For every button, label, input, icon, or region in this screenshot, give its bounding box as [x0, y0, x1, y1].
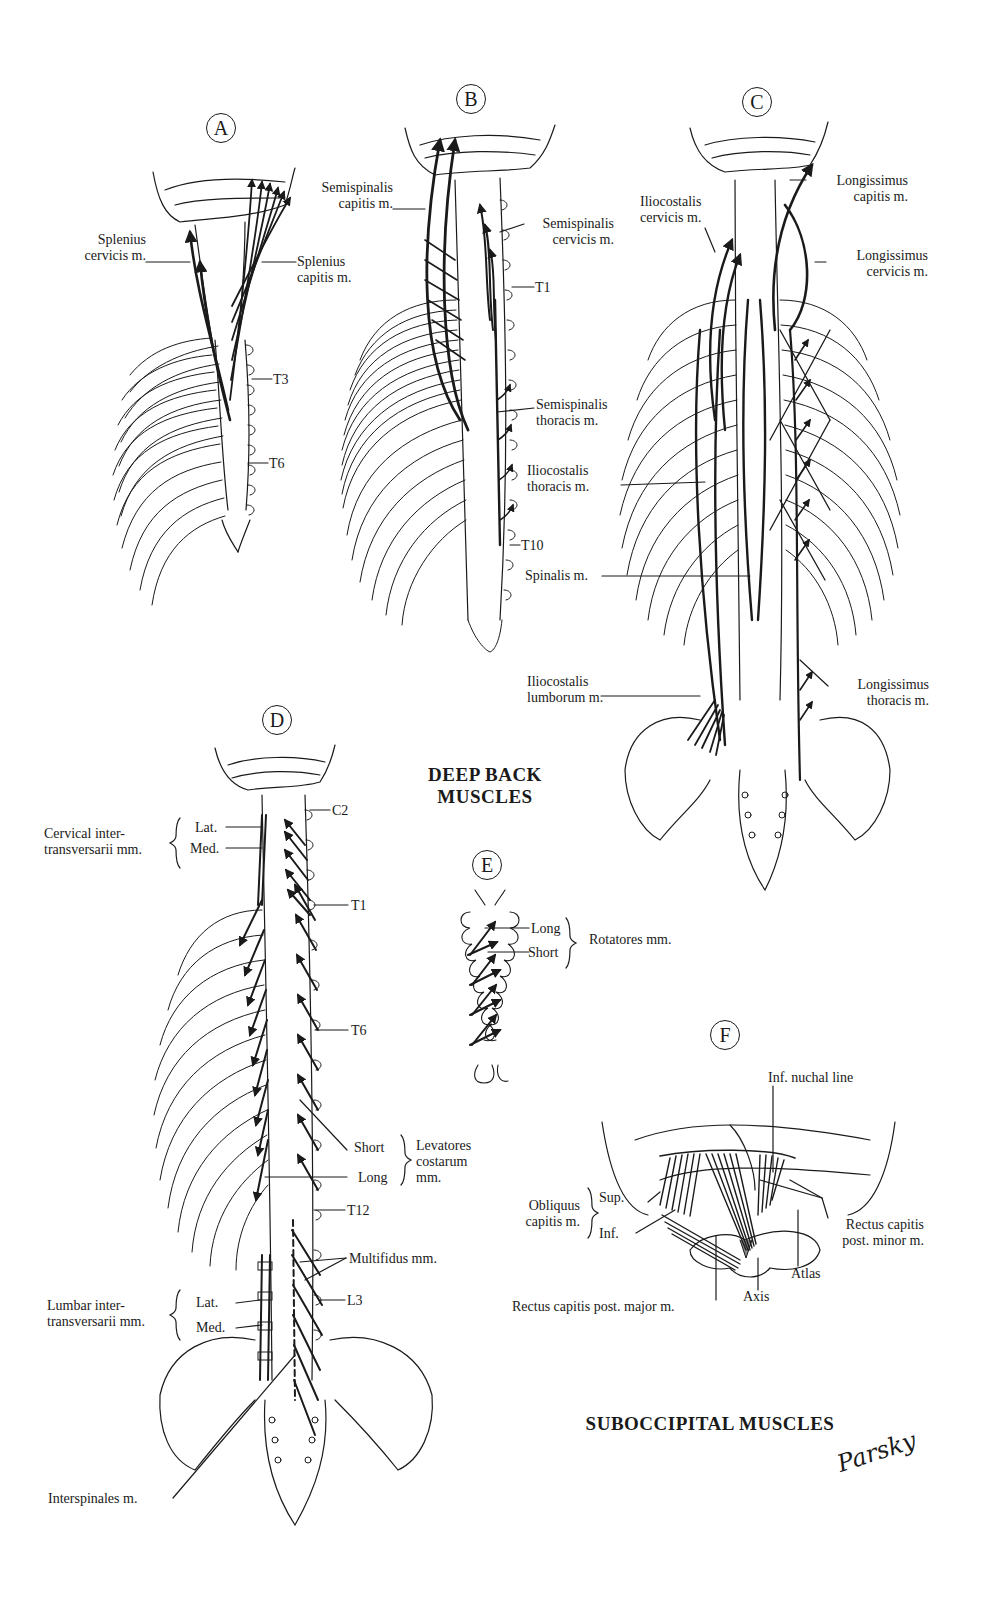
label-line: capitis m.	[300, 196, 393, 212]
label-iliocostalis-lumborum: Iliocostalis lumborum m.	[527, 674, 603, 706]
label-levatores-long: Long	[358, 1170, 388, 1186]
label-line: Iliocostalis	[527, 674, 603, 690]
panel-f-drawing	[602, 1122, 895, 1277]
label-lumbar-med: Med.	[196, 1320, 225, 1336]
label-atlas: Atlas	[791, 1266, 821, 1282]
label-interspinales: Interspinales m.	[48, 1491, 137, 1507]
label-line: costarum	[416, 1154, 471, 1170]
label-t6-d: T6	[351, 1023, 367, 1039]
figure-title-line-1: DEEP BACK	[410, 764, 560, 786]
label-longissimus-cervicis: Longissimus cervicis m.	[828, 248, 928, 280]
label-line: cervicis m.	[640, 210, 701, 226]
label-t1-b: T1	[535, 280, 551, 296]
label-line: thoracis m.	[829, 693, 929, 709]
panel-label-f: F	[710, 1020, 740, 1050]
label-lumbar-lat: Lat.	[196, 1295, 218, 1311]
label-iliocostalis-thoracis: Iliocostalis thoracis m.	[527, 463, 589, 495]
label-line: Longissimus	[828, 248, 928, 264]
label-axis: Axis	[743, 1289, 769, 1305]
figure-title-line-2: MUSCLES	[410, 786, 560, 808]
label-t6: T6	[269, 456, 285, 472]
label-splenius-capitis: Splenius capitis m.	[297, 254, 351, 286]
label-levatores-costarum: Levatores costarum mm.	[416, 1138, 471, 1186]
label-line: Semispinalis	[536, 397, 608, 413]
label-line: Iliocostalis	[640, 194, 701, 210]
panel-e-drawing	[461, 890, 519, 1083]
label-l3: L3	[347, 1293, 363, 1309]
label-line: Longissimus	[829, 677, 929, 693]
label-line: capitis m.	[297, 270, 351, 286]
label-line: Levatores	[416, 1138, 471, 1154]
label-levatores-short: Short	[354, 1140, 384, 1156]
label-cervical-lat: Lat.	[195, 820, 217, 836]
label-t1-d: T1	[351, 898, 367, 914]
label-semispinalis-capitis: Semispinalis capitis m.	[300, 180, 393, 212]
label-line: thoracis m.	[527, 479, 589, 495]
label-line: Semispinalis	[524, 216, 614, 232]
label-rotatores-short: Short	[528, 945, 558, 961]
label-line: thoracis m.	[536, 413, 608, 429]
panel-label-a: A	[206, 113, 236, 143]
label-line: cervicis m.	[524, 232, 614, 248]
label-line: transversarii mm.	[44, 842, 142, 858]
label-c2: C2	[332, 803, 348, 819]
label-line: mm.	[416, 1170, 471, 1186]
label-rotatores: Rotatores mm.	[589, 932, 671, 948]
figure-subtitle: SUBOCCIPITAL MUSCLES	[555, 1413, 865, 1435]
label-line: Lumbar inter-	[47, 1298, 145, 1314]
leader-lines	[146, 180, 828, 1498]
panel-c-drawing	[620, 122, 900, 890]
label-line: Splenius	[56, 232, 146, 248]
label-line: Obliquus	[490, 1198, 580, 1214]
label-lumbar-intertransversarii: Lumbar inter- transversarii mm.	[47, 1298, 145, 1330]
label-line: capitis m.	[490, 1214, 580, 1230]
label-t10: T10	[521, 538, 544, 554]
label-rectus-capitis-minor: Rectus capitis post. minor m.	[800, 1217, 924, 1249]
label-line: capitis m.	[808, 189, 908, 205]
panel-d-drawing	[154, 745, 432, 1525]
label-obliquus-capitis: Obliquus capitis m.	[490, 1198, 580, 1230]
label-semispinalis-thoracis: Semispinalis thoracis m.	[536, 397, 608, 429]
label-t12: T12	[347, 1203, 370, 1219]
panel-label-b: B	[456, 84, 486, 114]
label-line: Rectus capitis	[800, 1217, 924, 1233]
label-rectus-capitis-major: Rectus capitis post. major m.	[512, 1299, 675, 1315]
label-longissimus-capitis: Longissimus capitis m.	[808, 173, 908, 205]
label-cervical-med: Med.	[190, 841, 219, 857]
label-line: transversarii mm.	[47, 1314, 145, 1330]
label-line: lumborum m.	[527, 690, 603, 706]
label-semispinalis-cervicis: Semispinalis cervicis m.	[524, 216, 614, 248]
label-inf-nuchal-line: Inf. nuchal line	[768, 1070, 853, 1086]
label-obliquus-sup: Sup.	[599, 1190, 624, 1206]
label-line: Cervical inter-	[44, 826, 142, 842]
label-obliquus-inf: Inf.	[599, 1226, 619, 1242]
figure-title: DEEP BACK MUSCLES	[410, 764, 560, 808]
label-longissimus-thoracis: Longissimus thoracis m.	[829, 677, 929, 709]
label-cervical-intertransversarii: Cervical inter- transversarii mm.	[44, 826, 142, 858]
panel-label-c: C	[742, 87, 772, 117]
label-rotatores-long: Long	[531, 921, 561, 937]
panel-label-e: E	[472, 850, 502, 880]
label-iliocostalis-cervicis: Iliocostalis cervicis m.	[640, 194, 701, 226]
label-line: post. minor m.	[800, 1233, 924, 1249]
label-spinalis: Spinalis m.	[525, 568, 588, 584]
label-line: cervicis m.	[56, 248, 146, 264]
label-splenius-cervicis: Splenius cervicis m.	[56, 232, 146, 264]
label-line: Longissimus	[808, 173, 908, 189]
label-line: Splenius	[297, 254, 351, 270]
label-multifidus: Multifidus mm.	[349, 1251, 437, 1267]
label-t3: T3	[273, 372, 289, 388]
label-line: cervicis m.	[828, 264, 928, 280]
label-line: Semispinalis	[300, 180, 393, 196]
panel-label-d: D	[262, 705, 292, 735]
label-line: Iliocostalis	[527, 463, 589, 479]
